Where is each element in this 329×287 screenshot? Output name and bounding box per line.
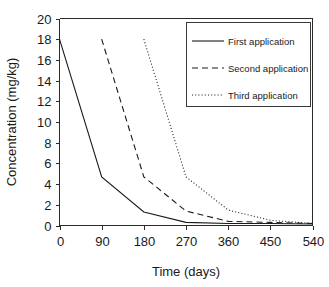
y-axis-tick-labels: 02468101214161820	[37, 12, 51, 234]
x-axis-title: Time (days)	[152, 264, 220, 279]
y-tick-label: 14	[37, 74, 51, 89]
y-tick-label: 0	[44, 219, 51, 234]
x-tick-label: 450	[260, 234, 282, 249]
x-tick-label: 90	[95, 234, 109, 249]
x-tick-label: 270	[176, 234, 198, 249]
y-axis-ticks	[56, 20, 60, 227]
x-tick-label: 180	[134, 234, 156, 249]
x-axis-tick-labels: 090180270360450540	[57, 234, 324, 249]
x-axis-ticks	[61, 226, 314, 230]
chart-figure: 02468101214161820 090180270360450540 Tim…	[0, 0, 329, 287]
legend-label-first-application: First application	[228, 36, 295, 47]
x-tick-label: 360	[218, 234, 240, 249]
y-tick-label: 4	[44, 177, 51, 192]
y-tick-label: 8	[44, 136, 51, 151]
x-tick-label: 540	[303, 234, 325, 249]
y-tick-label: 16	[37, 53, 51, 68]
y-tick-label: 12	[37, 94, 51, 109]
y-tick-label: 6	[44, 156, 51, 171]
x-tick-label: 0	[57, 234, 64, 249]
legend-label-third-application: Third application	[228, 90, 298, 101]
y-tick-label: 18	[37, 32, 51, 47]
legend-label-second-application: Second application	[228, 63, 308, 74]
y-tick-label: 20	[37, 12, 51, 27]
y-tick-label: 2	[44, 198, 51, 213]
chart-legend: First application Second application Thi…	[187, 23, 311, 107]
y-axis-title: Concentration (mg/kg)	[4, 58, 19, 187]
concentration-decay-line-chart: 02468101214161820 090180270360450540 Tim…	[0, 0, 329, 287]
y-tick-label: 10	[37, 115, 51, 130]
